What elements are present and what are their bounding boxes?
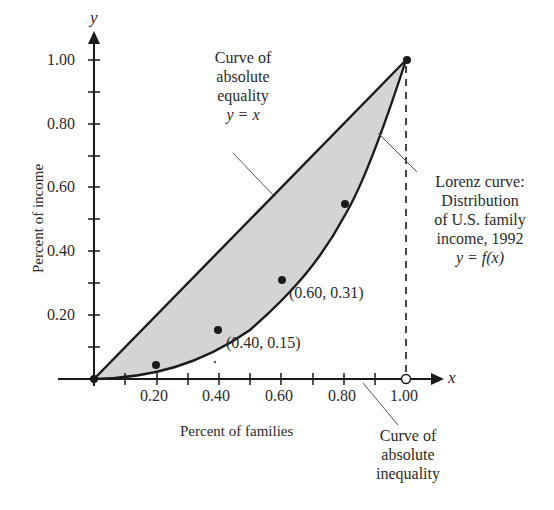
point-label-060: (0.60, 0.31) [289, 284, 364, 302]
x-axis-title: Percent of families [180, 423, 293, 440]
lorenz-leader [378, 133, 417, 172]
y-axis-title: Percent of income [30, 149, 47, 289]
inequality-line-3: inequality [358, 464, 458, 483]
x-tick-080: 0.80 [328, 387, 356, 405]
equality-equation: y = x [188, 105, 298, 124]
x-axis-arrow-icon [431, 373, 444, 385]
lorenz-line-4: income, 1992 [412, 229, 548, 248]
y-tick-060: 0.60 [47, 178, 75, 196]
inequality-line-1: Curve of [358, 426, 458, 445]
point-label-040: (0.40, 0.15) [226, 334, 301, 352]
equality-line-2: absolute [188, 67, 298, 86]
equality-line-3: equality [188, 86, 298, 105]
lorenz-equation: y = f(x) [412, 248, 548, 267]
x-tick-040: 0.40 [202, 387, 230, 405]
inequality-line-2: absolute [358, 445, 458, 464]
point-020 [152, 361, 160, 369]
x-tick-100: 1.00 [390, 387, 418, 405]
y-axis-arrow-icon [88, 31, 100, 44]
equality-leader [233, 153, 275, 197]
point-080 [341, 200, 349, 208]
point-060 [278, 276, 286, 284]
equality-annotation: Curve of absolute equality y = x [188, 48, 298, 124]
y-tick-020: 0.20 [47, 306, 75, 324]
equality-line-1: Curve of [188, 48, 298, 67]
x-tick-060: 0.60 [265, 387, 293, 405]
x-tick-020: 0.20 [140, 387, 168, 405]
x-var-label: x [448, 368, 456, 387]
inequality-annotation: Curve of absolute inequality [358, 426, 458, 483]
point-100 [403, 56, 411, 64]
lorenz-annotation: Lorenz curve: Distribution of U.S. famil… [412, 172, 548, 267]
y-tick-080: 0.80 [47, 115, 75, 133]
stray-dot [214, 361, 216, 363]
open-point-1-0 [402, 375, 411, 384]
point-040 [214, 326, 222, 334]
y-tick-040: 0.40 [47, 242, 75, 260]
y-tick-100: 1.00 [47, 51, 75, 69]
point-0-0 [90, 375, 98, 383]
lorenz-line-3: of U.S. family [412, 210, 548, 229]
lorenz-line-1: Lorenz curve: [412, 172, 548, 191]
y-var-label: y [90, 8, 98, 27]
lorenz-line-2: Distribution [412, 191, 548, 210]
